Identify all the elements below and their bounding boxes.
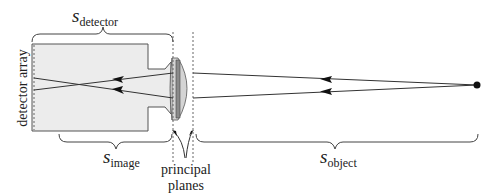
- object-distance-label: sobject: [320, 146, 357, 170]
- ray-upper-object-side: [193, 73, 477, 85]
- camera-optics-diagram: sdetector simage sobject detector array …: [0, 0, 500, 196]
- principal-plane-pointer-left: [174, 132, 185, 158]
- detector-distance-label: sdetector: [72, 5, 118, 29]
- detector-distance-brace: [32, 27, 173, 42]
- principal-plane-pointer-right: [186, 132, 192, 158]
- principal-planes-label-line1: principal: [161, 162, 211, 177]
- object-point: [474, 82, 481, 89]
- ray-lower-object-side: [193, 85, 477, 98]
- image-distance-label: simage: [103, 146, 140, 170]
- object-distance-brace: [196, 134, 478, 149]
- arrow-icon: [320, 76, 332, 83]
- image-distance-brace: [59, 134, 172, 149]
- principal-planes-label-line2: planes: [168, 178, 204, 193]
- detector-array-label: detector array: [15, 49, 30, 126]
